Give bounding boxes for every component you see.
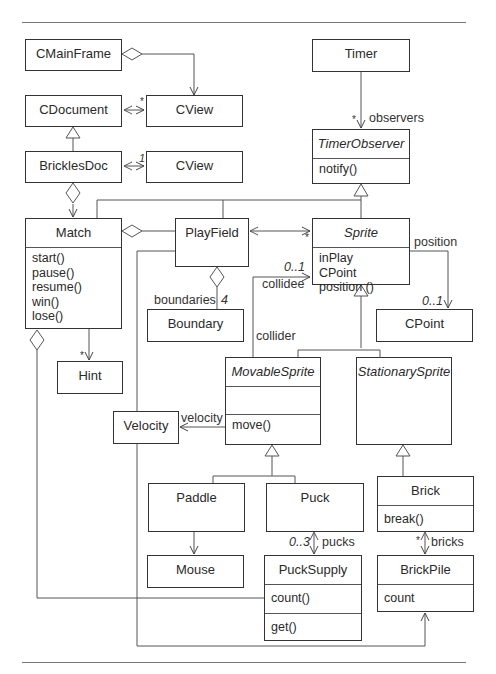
class-name: Boundary <box>148 310 243 338</box>
multiplicity-bricks: * <box>416 535 420 546</box>
role-collidee: collidee <box>262 277 304 291</box>
operations-compartment: get() <box>265 613 361 638</box>
class-stationarysprite[interactable]: StationarySprite <box>356 357 452 445</box>
role-velocity: velocity <box>181 411 223 425</box>
multiplicity-timer-observers: * <box>352 114 356 125</box>
class-name: CPoint <box>377 310 472 338</box>
class-name: Mouse <box>148 556 243 584</box>
multiplicity-bdoc-cview: 1 <box>139 152 145 164</box>
class-name: CDocument <box>26 96 121 124</box>
members-compartment: inPlay CPoint position () <box>313 247 409 298</box>
class-boundary[interactable]: Boundary <box>147 309 244 342</box>
role-bricks: bricks <box>431 535 464 549</box>
class-name: CMainFrame <box>26 40 121 68</box>
attribute: count() <box>271 591 355 606</box>
class-name: BrickPile <box>378 556 473 584</box>
class-name: StationarySprite <box>357 358 451 386</box>
class-cpoint[interactable]: CPoint <box>376 309 473 342</box>
class-name: Hint <box>58 362 122 390</box>
multiplicity-pucks: 0..3 <box>289 535 310 549</box>
operations-compartment: break() <box>378 505 473 530</box>
class-hint[interactable]: Hint <box>57 361 123 394</box>
role-observers: observers <box>369 111 424 125</box>
operation: pause() <box>32 266 115 281</box>
class-cmainframe[interactable]: CMainFrame <box>25 39 122 71</box>
attributes-compartment: count() <box>265 584 361 613</box>
class-movablesprite[interactable]: MovableSprite move() <box>225 357 321 445</box>
class-brick[interactable]: Brick break() <box>377 476 474 532</box>
class-match[interactable]: Match start() pause() resume() win() los… <box>25 218 122 329</box>
multiplicity-cpoint: 0..1 <box>422 294 443 308</box>
class-cview-2[interactable]: CView <box>146 151 243 183</box>
multiplicity-cdoc-cview: * <box>140 96 144 107</box>
operation: break() <box>384 512 467 527</box>
operations-compartment: start() pause() resume() win() lose() <box>26 247 121 327</box>
attribute: count <box>384 591 467 606</box>
operation: win() <box>32 295 115 310</box>
class-name: BricklesDoc <box>26 152 121 180</box>
class-bricklesdoc[interactable]: BricklesDoc <box>25 151 122 183</box>
role-pucks: pucks <box>322 535 355 549</box>
operation: resume() <box>32 280 115 295</box>
class-cdocument[interactable]: CDocument <box>25 95 122 127</box>
class-name: Velocity <box>114 412 178 440</box>
class-name: MovableSprite <box>226 358 320 386</box>
operation: lose() <box>32 309 115 324</box>
class-playfield[interactable]: PlayField <box>175 218 249 267</box>
operation: move() <box>232 418 314 433</box>
operation: notify() <box>319 162 403 177</box>
class-name: CView <box>147 152 242 180</box>
attributes-compartment: count <box>378 584 473 609</box>
class-velocity[interactable]: Velocity <box>113 411 179 444</box>
class-name: Puck <box>267 484 363 512</box>
class-name: TimerObserver <box>313 130 409 158</box>
attributes-compartment <box>226 386 320 414</box>
class-pucksupply[interactable]: PuckSupply count() get() <box>264 555 362 641</box>
role-collider: collider <box>256 329 296 343</box>
class-name: Timer <box>313 40 409 68</box>
class-cview-1[interactable]: CView <box>146 95 243 127</box>
multiplicity-hint: * <box>80 350 84 361</box>
multiplicity-playfield-sprite: * <box>305 232 309 243</box>
class-timer[interactable]: Timer <box>312 39 410 72</box>
class-name: Sprite <box>313 219 409 247</box>
role-position: position <box>414 235 457 249</box>
attribute: inPlay <box>319 251 403 266</box>
multiplicity-boundaries: 4 <box>221 293 228 307</box>
operation: get() <box>271 620 355 635</box>
operations-compartment: notify() <box>313 158 409 180</box>
class-name: CView <box>147 96 242 124</box>
operation: start() <box>32 251 115 266</box>
class-sprite[interactable]: Sprite inPlay CPoint position () <box>312 218 410 285</box>
role-boundaries: boundaries <box>154 293 216 307</box>
class-name: PlayField <box>176 219 248 247</box>
class-name: Match <box>26 219 121 247</box>
class-name: Brick <box>378 477 473 505</box>
operations-compartment: move() <box>226 414 320 436</box>
operation: CPoint position () <box>319 266 403 295</box>
class-brickpile[interactable]: BrickPile count <box>377 555 474 612</box>
class-timerobserver[interactable]: TimerObserver notify() <box>312 129 410 184</box>
class-puck[interactable]: Puck <box>266 483 364 532</box>
class-paddle[interactable]: Paddle <box>148 483 245 532</box>
class-mouse[interactable]: Mouse <box>147 555 244 588</box>
class-name: PuckSupply <box>265 556 361 584</box>
class-name: Paddle <box>149 484 244 512</box>
multiplicity-collidee: 0..1 <box>284 260 305 274</box>
